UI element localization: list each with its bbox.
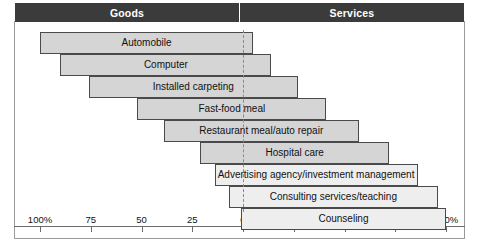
bar-label: Computer [144, 60, 188, 70]
bar-row: Advertising agency/investment management [14, 164, 465, 186]
bar-automobile[interactable]: Automobile [40, 32, 253, 54]
header-services-label: Services [330, 7, 375, 19]
bar-label: Hospital care [266, 148, 324, 158]
header-goods: Goods [15, 3, 240, 22]
goods-services-continuum-chart: Goods Services AutomobileComputerInstall… [0, 0, 479, 247]
axis-tick-mark [91, 226, 92, 232]
axis-tick-label-goods-100: 100% [28, 214, 52, 225]
bar-advertising-agency-investment-management[interactable]: Advertising agency/investment management [215, 164, 418, 186]
bar-installed-carpeting[interactable]: Installed carpeting [89, 76, 298, 98]
chart-header-band: Goods Services [15, 3, 464, 22]
bar-counseling[interactable]: Counseling [241, 208, 446, 230]
bar-label: Restaurant meal/auto repair [199, 126, 323, 136]
axis-tick-mark [446, 226, 447, 232]
bar-row: Installed carpeting [14, 76, 465, 98]
bar-label: Installed carpeting [153, 82, 234, 92]
bar-row: Consulting services/teaching [14, 186, 465, 208]
axis-tick-label-goods-50: 50 [136, 214, 147, 225]
header-services: Services [240, 3, 464, 22]
plot-area: AutomobileComputerInstalled carpetingFas… [14, 22, 465, 212]
bar-consulting-services-teaching[interactable]: Consulting services/teaching [229, 186, 438, 208]
bar-label: Counseling [318, 214, 368, 224]
axis-tick-label-goods-75: 75 [85, 214, 96, 225]
bar-label: Consulting services/teaching [270, 192, 397, 202]
bar-row: Fast-food meal [14, 98, 465, 120]
header-goods-label: Goods [110, 7, 144, 19]
bar-label: Automobile [122, 38, 172, 48]
axis-tick-label-goods-25: 25 [187, 214, 198, 225]
bar-restaurant-meal-auto-repair[interactable]: Restaurant meal/auto repair [164, 120, 359, 142]
bar-label: Fast-food meal [198, 104, 265, 114]
bar-row: Automobile [14, 32, 465, 54]
bar-row: Restaurant meal/auto repair [14, 120, 465, 142]
bar-fast-food-meal[interactable]: Fast-food meal [137, 98, 326, 120]
axis-tick-mark [192, 226, 193, 232]
bar-row: Hospital care [14, 142, 465, 164]
bar-label: Advertising agency/investment management [218, 170, 415, 180]
axis-tick-mark [40, 226, 41, 232]
bar-row: Computer [14, 54, 465, 76]
axis-tick-mark [142, 226, 143, 232]
bar-computer[interactable]: Computer [60, 54, 271, 76]
bar-hospital-care[interactable]: Hospital care [200, 142, 389, 164]
